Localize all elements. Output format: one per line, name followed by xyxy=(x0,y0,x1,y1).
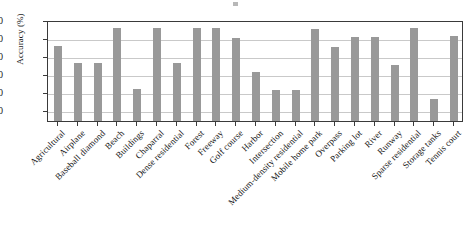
bar-chart: Accuracy (%) 5060708090100 AgriculturalA… xyxy=(0,0,472,239)
x-axis-tick-labels: AgriculturalAirplaneBaseball diamondBeac… xyxy=(0,0,472,239)
